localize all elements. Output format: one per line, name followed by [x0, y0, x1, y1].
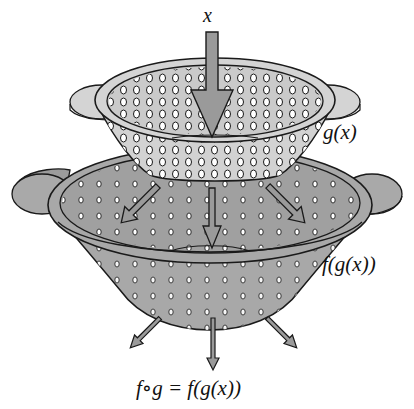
output-arrow-right: [263, 314, 301, 352]
output-arrows: [126, 314, 301, 370]
inner-function-label: g(x): [323, 120, 357, 145]
composition-label: f∘g = f(g(x)): [136, 376, 241, 401]
composition-diagram: [0, 0, 414, 409]
output-arrow-left: [126, 314, 164, 352]
outer-function-label: f(g(x)): [322, 252, 376, 277]
input-label: x: [203, 4, 212, 27]
